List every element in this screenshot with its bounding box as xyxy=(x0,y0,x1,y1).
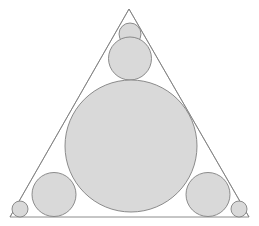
bottom-right-corner-circle xyxy=(231,201,247,217)
circle-packing-figure xyxy=(0,0,259,226)
bottom-right-medium-circle xyxy=(186,173,230,217)
top-medium-circle xyxy=(109,37,152,80)
bottom-left-corner-circle xyxy=(12,201,28,217)
central-large-circle xyxy=(65,80,197,212)
bottom-left-medium-circle xyxy=(32,173,76,217)
